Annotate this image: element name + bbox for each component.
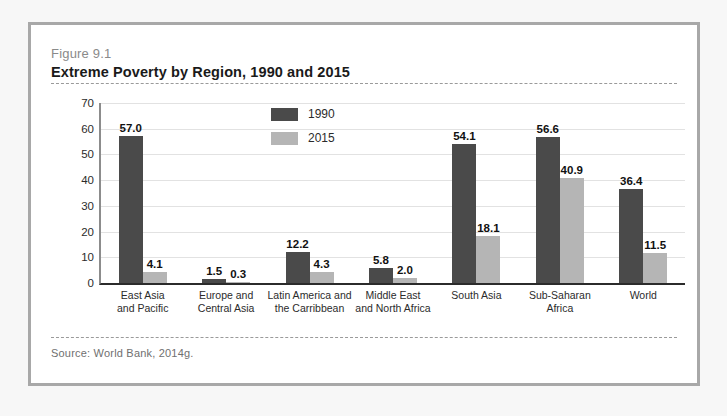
bar-value-label: 36.4 — [620, 175, 642, 187]
bar-1990[interactable]: 36.4 — [619, 189, 643, 283]
bar-2015[interactable]: 11.5 — [643, 253, 667, 283]
bar-2015[interactable]: 0.3 — [226, 282, 250, 283]
bar-group: 54.118.1South Asia — [435, 103, 518, 283]
bar-1990[interactable]: 12.2 — [286, 252, 310, 283]
x-axis-category-label: World — [594, 289, 693, 302]
bar-value-label: 57.0 — [120, 122, 142, 134]
chart: % of Population in Extreme Poverty 01020… — [51, 103, 683, 331]
bar-1990[interactable]: 1.5 — [202, 279, 226, 283]
bar-value-label: 4.3 — [314, 258, 330, 270]
bars: 36.411.5 — [602, 103, 685, 283]
y-axis-tick-label: 60 — [81, 123, 94, 135]
y-axis-tick-label: 40 — [81, 174, 94, 186]
plot-area: 010203040506070 1990 2015 57.04.1East As… — [99, 103, 685, 285]
bar-group: 36.411.5World — [602, 103, 685, 283]
bar-1990[interactable]: 56.6 — [536, 137, 560, 283]
bars: 56.640.9 — [518, 103, 601, 283]
bar-group: 56.640.9Sub-SaharanAfrica — [518, 103, 601, 283]
bar-value-label: 11.5 — [644, 239, 666, 251]
y-axis-tick-label: 10 — [81, 251, 94, 263]
bars: 57.04.1 — [101, 103, 184, 283]
bars: 12.24.3 — [268, 103, 351, 283]
bars: 1.50.3 — [184, 103, 267, 283]
bar-value-label: 12.2 — [286, 238, 308, 250]
bars: 54.118.1 — [435, 103, 518, 283]
y-axis-tick-label: 20 — [81, 226, 94, 238]
bars: 5.82.0 — [351, 103, 434, 283]
bar-1990[interactable]: 57.0 — [119, 136, 143, 283]
bar-group: 57.04.1East Asiaand Pacific — [101, 103, 184, 283]
y-axis-tick-label: 30 — [81, 200, 94, 212]
source-note: Source: World Bank, 2014g. — [51, 347, 194, 359]
bar-2015[interactable]: 4.3 — [310, 272, 334, 283]
bar-2015[interactable]: 18.1 — [476, 236, 500, 283]
bar-value-label: 1.5 — [206, 265, 222, 277]
bar-group: 12.24.3Latin America andthe Carribbean — [268, 103, 351, 283]
bar-value-label: 54.1 — [453, 130, 475, 142]
bar-value-label: 5.8 — [373, 254, 389, 266]
x-axis-category-label-line: and North Africa — [343, 302, 442, 315]
bar-2015[interactable]: 40.9 — [560, 178, 584, 283]
bar-groups: 57.04.1East Asiaand Pacific1.50.3Europe … — [101, 103, 685, 283]
bar-value-label: 4.1 — [147, 258, 163, 270]
bar-2015[interactable]: 4.1 — [143, 272, 167, 283]
bar-value-label: 0.3 — [230, 268, 246, 280]
y-axis-tick-label: 70 — [81, 97, 94, 109]
x-axis-category-label-line: World — [594, 289, 693, 302]
bar-value-label: 56.6 — [537, 123, 559, 135]
x-axis-category-label-line: Africa — [510, 302, 609, 315]
y-axis-tick-label: 50 — [81, 148, 94, 160]
bar-value-label: 2.0 — [397, 264, 413, 276]
bar-value-label: 40.9 — [561, 164, 583, 176]
figure-frame: Figure 9.1 Extreme Poverty by Region, 19… — [28, 22, 700, 386]
bar-group: 5.82.0Middle Eastand North Africa — [351, 103, 434, 283]
y-axis-tick-label: 0 — [88, 277, 94, 289]
divider-bottom — [51, 337, 677, 338]
bar-1990[interactable]: 5.8 — [369, 268, 393, 283]
bar-value-label: 18.1 — [477, 222, 499, 234]
bar-2015[interactable]: 2.0 — [393, 278, 417, 283]
bar-group: 1.50.3Europe andCentral Asia — [184, 103, 267, 283]
figure-number: Figure 9.1 — [51, 45, 677, 62]
bar-1990[interactable]: 54.1 — [452, 144, 476, 283]
